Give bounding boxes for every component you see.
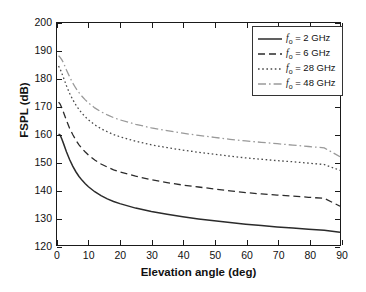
y-tick-mark bbox=[57, 51, 62, 52]
x-tick-mark-top bbox=[215, 23, 216, 28]
legend-line-sample bbox=[257, 64, 283, 74]
y-tick-mark bbox=[57, 247, 62, 248]
legend-item-6ghz: fo = 6 GHz bbox=[257, 46, 338, 61]
x-tick-label: 40 bbox=[178, 249, 190, 261]
x-tick-mark bbox=[183, 240, 184, 245]
x-tick-mark-top bbox=[88, 23, 89, 28]
y-axis-title: FSPL (dB) bbox=[18, 45, 30, 175]
x-tick-label: 80 bbox=[304, 249, 316, 261]
y-tick-mark bbox=[57, 135, 62, 136]
y-tick-mark bbox=[57, 23, 62, 24]
x-tick-label: 70 bbox=[273, 249, 285, 261]
y-tick-label: 130 bbox=[34, 212, 52, 224]
x-tick-mark-top bbox=[247, 23, 248, 28]
x-tick-mark bbox=[57, 240, 58, 245]
x-tick-label: 10 bbox=[83, 249, 95, 261]
x-tick-label: 50 bbox=[209, 249, 221, 261]
x-tick-mark bbox=[152, 240, 153, 245]
y-tick-mark bbox=[57, 219, 62, 220]
y-tick-mark-right bbox=[335, 163, 340, 164]
x-tick-label: 90 bbox=[336, 249, 348, 261]
x-tick-mark bbox=[120, 240, 121, 245]
y-tick-mark-right bbox=[335, 135, 340, 136]
y-tick-label: 160 bbox=[34, 128, 52, 140]
y-tick-mark bbox=[57, 107, 62, 108]
y-tick-label: 140 bbox=[34, 184, 52, 196]
x-tick-mark-top bbox=[183, 23, 184, 28]
legend-line-sample bbox=[257, 34, 283, 44]
y-tick-label: 150 bbox=[34, 156, 52, 168]
x-tick-mark bbox=[215, 240, 216, 245]
y-tick-mark-right bbox=[335, 191, 340, 192]
legend-item-2ghz: fo = 2 GHz bbox=[257, 31, 338, 46]
y-tick-mark bbox=[57, 163, 62, 164]
y-tick-label: 200 bbox=[34, 16, 52, 28]
x-tick-mark bbox=[310, 240, 311, 245]
x-axis-title: Elevation angle (deg) bbox=[56, 266, 341, 278]
x-tick-mark bbox=[278, 240, 279, 245]
figure-canvas: 120130140150160170180190200 010203040506… bbox=[0, 0, 366, 292]
x-tick-mark-top bbox=[120, 23, 121, 28]
y-tick-mark-right bbox=[335, 247, 340, 248]
x-tick-mark bbox=[88, 240, 89, 245]
x-tick-mark-top bbox=[152, 23, 153, 28]
legend-line-sample bbox=[257, 79, 283, 89]
x-tick-mark-top bbox=[57, 23, 58, 28]
legend-box: fo = 2 GHzfo = 6 GHzfo = 28 GHzfo = 48 G… bbox=[252, 26, 343, 96]
y-tick-label: 190 bbox=[34, 44, 52, 56]
x-tick-label: 60 bbox=[241, 249, 253, 261]
x-tick-label: 20 bbox=[114, 249, 126, 261]
y-tick-mark-right bbox=[335, 23, 340, 24]
curve-6ghz bbox=[59, 102, 340, 206]
y-tick-mark bbox=[57, 191, 62, 192]
y-tick-label: 180 bbox=[34, 72, 52, 84]
y-tick-mark-right bbox=[335, 219, 340, 220]
legend-label: fo = 48 GHz bbox=[286, 78, 336, 90]
x-tick-mark bbox=[342, 240, 343, 245]
y-tick-label: 170 bbox=[34, 100, 52, 112]
legend-label: fo = 2 GHz bbox=[286, 33, 330, 45]
y-tick-mark-right bbox=[335, 107, 340, 108]
x-tick-label: 0 bbox=[54, 249, 60, 261]
legend-label: fo = 28 GHz bbox=[286, 63, 336, 75]
y-tick-mark bbox=[57, 79, 62, 80]
legend-label: fo = 6 GHz bbox=[286, 48, 330, 60]
legend-item-28ghz: fo = 28 GHz bbox=[257, 61, 338, 76]
x-tick-mark bbox=[247, 240, 248, 245]
legend-item-48ghz: fo = 48 GHz bbox=[257, 76, 338, 91]
legend-line-sample bbox=[257, 49, 283, 59]
curve-2ghz bbox=[59, 134, 340, 232]
y-tick-label: 120 bbox=[34, 240, 52, 252]
x-tick-label: 30 bbox=[146, 249, 158, 261]
